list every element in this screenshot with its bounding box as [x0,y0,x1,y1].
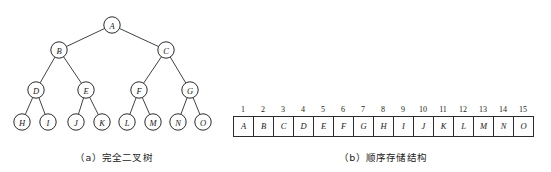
array-index-9: 9 [393,103,413,116]
tree-node-k[interactable]: K [94,114,110,130]
array-cell-2[interactable]: B [254,117,274,136]
array-index-10: 10 [413,103,433,116]
tree-node-label-c: C [163,46,169,56]
tree-node-d[interactable]: D [28,82,44,98]
array-index-row: 123456789101112131415 [233,103,533,116]
tree-edge-d-h [25,98,32,115]
tree-node-label-l: L [124,118,130,128]
array-index-4: 4 [293,103,313,116]
array-cell-4[interactable]: D [294,117,314,136]
tree-node-l[interactable]: L [119,114,135,130]
array-cell-8[interactable]: H [374,117,394,136]
array-cell-12[interactable]: L [454,117,474,136]
tree-node-label-g: G [187,86,193,96]
array-index-11: 11 [433,103,453,116]
tree-node-label-e: E [82,86,89,96]
tree-edge-a-b [66,29,104,47]
array-index-8: 8 [373,103,393,116]
array-cell-10[interactable]: J [414,117,434,136]
tree-edge-b-d [40,57,55,83]
array-cell-6[interactable]: F [334,117,354,136]
tree-edge-f-l [130,98,136,115]
tree-node-c[interactable]: C [158,42,174,58]
tree-node-label-o: O [200,118,206,128]
tree-edge-b-e [64,57,82,83]
tree-node-b[interactable]: B [51,42,67,58]
tree-edge-e-k [90,97,99,114]
scan-artifact-text: ············· ·········· ····· ······ ··… [0,0,146,4]
array-index-6: 6 [333,103,353,116]
array-cell-14[interactable]: N [494,117,514,136]
binary-tree-diagram: ABCDEFGHIJKLMNO [0,8,228,148]
array-index-15: 15 [513,103,533,116]
sequential-storage-diagram: 123456789101112131415 ABCDEFGHIJKLMNO [233,103,534,137]
caption-tree: （a）完全二叉树 [0,150,228,164]
tree-node-g[interactable]: G [182,82,198,98]
caption-array: （b）顺序存储结构 [233,150,533,164]
tree-node-e[interactable]: E [78,82,94,98]
tree-edge-g-n [181,98,187,115]
tree-edge-d-i [39,98,45,115]
tree-node-n[interactable]: N [170,114,186,130]
array-cell-1[interactable]: A [234,117,254,136]
array-index-3: 3 [273,103,293,116]
tree-edge-c-f [144,57,162,83]
array-cell-9[interactable]: I [394,117,414,136]
tree-node-label-a: A [108,21,115,31]
tree-node-h[interactable]: H [14,114,30,130]
array-index-1: 1 [233,103,253,116]
binary-tree-svg: ABCDEFGHIJKLMNO [0,8,228,148]
tree-edge-f-m [142,98,149,115]
array-cell-5[interactable]: E [314,117,334,136]
tree-node-label-d: D [32,86,40,96]
array-index-13: 13 [473,103,493,116]
tree-node-m[interactable]: M [145,114,161,130]
array-cell-7[interactable]: G [354,117,374,136]
array-cell-15[interactable]: O [514,117,534,136]
figure-container: ············· ·········· ····· ······ ··… [0,0,551,172]
tree-edge-c-g [170,57,186,83]
array-cell-11[interactable]: K [434,117,454,136]
array-index-12: 12 [453,103,473,116]
tree-node-label-b: B [56,46,61,56]
tree-edge-group [25,28,200,114]
array-index-2: 2 [253,103,273,116]
tree-node-f[interactable]: F [131,82,147,98]
tree-node-i[interactable]: I [40,114,56,130]
tree-node-label-f: F [135,86,142,96]
array-index-14: 14 [493,103,513,116]
tree-node-label-h: H [18,118,26,128]
array-index-5: 5 [313,103,333,116]
array-cell-row: ABCDEFGHIJKLMNO [233,116,534,137]
tree-edge-e-j [78,98,83,114]
tree-node-j[interactable]: J [68,114,84,130]
tree-node-label-m: M [148,118,157,128]
tree-edge-a-c [119,28,158,46]
tree-node-o[interactable]: O [195,114,211,130]
tree-edge-g-o [193,98,200,115]
array-index-7: 7 [353,103,373,116]
scan-artifact-strip: ············· ·········· ····· ······ ··… [0,0,551,7]
array-cell-3[interactable]: C [274,117,294,136]
tree-node-a[interactable]: A [104,17,120,33]
array-cell-13[interactable]: M [474,117,494,136]
